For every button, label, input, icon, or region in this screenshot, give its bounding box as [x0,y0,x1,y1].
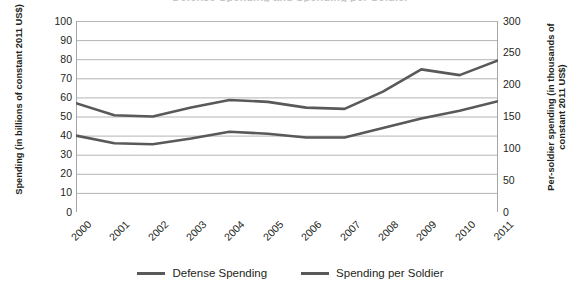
chart-title: Defense Spending and Spending per Soldie… [0,0,581,2]
y-axis-left-tick-label: 70 [34,72,72,85]
y-axis-right-ticks: 050100150200250300 [503,12,539,218]
x-axis-ticks: 2000200120022003200420052006200720082009… [76,212,498,260]
y-axis-left-tick-label: 0 [34,206,72,219]
legend-line-swatch [137,272,165,275]
y-axis-left-tick-label: 40 [34,129,72,142]
legend-line-swatch [301,272,329,275]
y-axis-left-tick-label: 50 [34,110,72,123]
x-axis-tick-label: 2007 [325,218,362,255]
chart-container: Defense Spending and Spending per Soldie… [0,0,581,290]
x-axis-tick-label: 2004 [210,218,247,255]
series-line-2 [76,60,498,116]
y-axis-left-tick-label: 10 [34,186,72,199]
x-axis-tick-label: 2000 [57,218,94,255]
y-axis-left-tick-label: 100 [34,15,72,28]
chart-legend: Defense SpendingSpending per Soldier [0,262,581,284]
y-axis-left-title: Spending (in billions of constant 2011 U… [14,0,25,200]
y-axis-left-tick-label: 60 [34,91,72,104]
y-axis-right-tick-label: 150 [503,110,539,123]
y-axis-left-tick-label: 90 [34,34,72,47]
x-axis-tick-label: 2005 [249,218,286,255]
x-axis-tick-label: 2003 [172,218,209,255]
y-axis-right-tick-label: 0 [503,206,539,219]
legend-label: Spending per Soldier [336,267,443,279]
x-axis-tick-label: 2008 [364,218,401,255]
chart-plot-svg [76,21,498,212]
x-axis-tick-label: 2011 [479,218,516,255]
x-axis-tick-label: 2006 [287,218,324,255]
y-axis-left-tick-label: 30 [34,148,72,161]
legend-item[interactable]: Defense Spending [137,267,267,279]
y-axis-left-ticks: 0102030405060708090100 [34,12,72,218]
y-axis-right-tick-label: 300 [503,15,539,28]
y-axis-right-tick-label: 100 [503,142,539,155]
series-line-1 [76,101,498,144]
legend-item[interactable]: Spending per Soldier [301,267,443,279]
x-axis-tick-label: 2001 [95,218,132,255]
y-axis-left-tick-label: 80 [34,53,72,66]
y-axis-right-tick-label: 250 [503,46,539,59]
x-axis-tick-label: 2002 [133,218,170,255]
y-axis-right-title: Per-soldier spending (in thousands of co… [546,7,568,207]
y-axis-right-tick-label: 50 [503,174,539,187]
x-axis-tick-label: 2010 [440,218,477,255]
y-axis-right-tick-label: 200 [503,78,539,91]
plot-area [76,21,498,212]
legend-label: Defense Spending [172,267,267,279]
y-axis-left-tick-label: 20 [34,167,72,180]
x-axis-tick-label: 2009 [402,218,439,255]
